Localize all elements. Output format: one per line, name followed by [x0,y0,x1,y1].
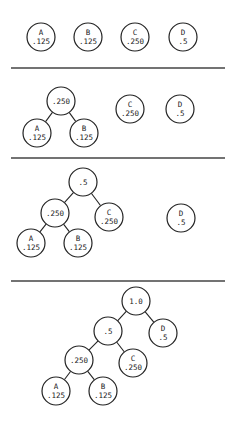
tree-edge [88,371,95,380]
panel-step-2: .250A.125B.125C.250D.5 [23,87,194,147]
tree-node-ab: .250 [65,346,93,374]
tree-node-b: B.125 [89,377,117,405]
node-weight: .250 [52,97,71,106]
node-weight: .5 [103,327,112,336]
node-symbol: B [86,28,91,37]
tree-node-d: D.5 [166,95,194,123]
tree-node-abc: .5 [69,168,97,196]
node-symbol: D [178,100,183,109]
node-symbol: B [76,234,81,243]
tree-edge [64,371,70,380]
node-weight: .125 [69,243,87,252]
node-symbol: C [128,100,133,109]
node-symbol: B [82,124,87,133]
tree-edge [64,224,70,232]
tree-node-d: D.5 [167,204,195,232]
tree-node-c: C.250 [95,203,123,231]
tree-node-abc: .5 [94,317,122,345]
node-symbol: C [107,208,112,217]
tree-node-d: D.5 [149,319,177,347]
node-weight: .125 [28,133,46,142]
node-weight: 1.0 [129,297,143,306]
node-weight: .125 [79,37,97,46]
node-weight: .250 [46,209,65,218]
node-weight: .5 [78,178,87,187]
panel-step-1: A.125B.125C.250D.5 [27,23,197,51]
tree-edge [40,224,47,232]
node-weight: .250 [70,356,89,365]
tree-node-ab: .250 [41,199,69,227]
node-symbol: B [101,382,106,391]
tree-node-b: B.125 [74,23,102,51]
tree-edge [91,193,100,206]
node-symbol: D [181,28,186,37]
node-weight: .250 [100,217,119,226]
tree-node-root: 1.0 [122,287,150,315]
tree-edge [45,112,52,122]
node-weight: .5 [158,333,167,342]
panel-step-3: .5.250C.250A.125B.125D.5 [17,168,195,257]
node-weight: .5 [175,109,184,118]
tree-node-b: B.125 [70,119,98,147]
node-symbol: A [54,382,59,391]
tree-edge [69,112,76,121]
tree-node-c: C.250 [121,23,149,51]
tree-edge [64,192,73,202]
node-weight: .250 [124,363,143,372]
node-weight: .125 [75,133,93,142]
node-weight: .5 [176,218,185,227]
tree-edge [117,342,125,352]
node-weight: .125 [47,391,65,400]
tree-node-ab: .250 [47,87,75,115]
tree-node-a: A.125 [17,229,45,257]
node-symbol: C [131,354,136,363]
node-weight: .125 [32,37,50,46]
node-weight: .250 [126,37,145,46]
node-weight: .5 [178,37,187,46]
huffman-diagram: A.125B.125C.250D.5.250A.125B.125C.250D.5… [0,0,234,422]
node-symbol: A [29,234,34,243]
node-weight: .125 [22,243,40,252]
tree-edge [118,311,127,321]
panel-step-4: 1.0.5D.5.250C.250A.125B.125 [42,287,177,405]
node-symbol: A [39,28,44,37]
node-symbol: C [133,28,138,37]
tree-node-a: A.125 [23,119,51,147]
node-weight: .125 [94,391,112,400]
node-symbol: D [161,324,166,333]
node-symbol: D [179,209,184,218]
tree-node-a: A.125 [27,23,55,51]
tree-node-a: A.125 [42,377,70,405]
tree-node-b: B.125 [64,229,92,257]
node-weight: .250 [121,109,140,118]
tree-node-d: D.5 [169,23,197,51]
tree-node-c: C.250 [116,95,144,123]
node-symbol: A [35,124,40,133]
tree-node-c: C.250 [119,349,147,377]
tree-edge [89,341,98,350]
tree-edge [145,312,154,323]
